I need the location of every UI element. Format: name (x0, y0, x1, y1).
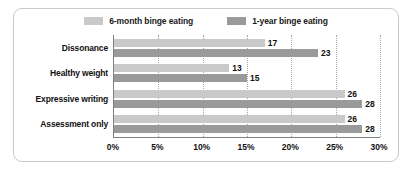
bar-value-label: 17 (268, 38, 277, 48)
x-tick-label: 10% (193, 142, 210, 152)
x-tick-label: 0% (107, 142, 119, 152)
x-tick-label: 25% (326, 142, 343, 152)
bar-0 (114, 39, 265, 47)
bar-0 (114, 90, 345, 98)
legend-label-1-year: 1-year binge eating (252, 16, 328, 26)
bar-value-label: 26 (348, 114, 357, 124)
x-tick-label: 15% (237, 142, 254, 152)
category-label: Healthy weight (14, 68, 108, 78)
bar-value-label: 15 (250, 73, 259, 83)
gridline (380, 35, 381, 137)
bar-1 (114, 49, 318, 57)
chart-legend: 6-month binge eating 1-year binge eating (14, 16, 398, 26)
legend-entry-1-year: 1-year binge eating (227, 16, 328, 26)
bar-0 (114, 64, 229, 72)
bar-value-label: 28 (365, 124, 374, 134)
x-tick-label: 5% (151, 142, 163, 152)
x-tick-label: 20% (282, 142, 299, 152)
plot-area: 1723131526282628 (113, 35, 380, 138)
legend-entry-6-month: 6-month binge eating (84, 16, 193, 26)
plot-wrapper: DissonanceHealthy weightExpressive writi… (14, 35, 400, 163)
bar-1 (114, 74, 247, 82)
legend-swatch-1-year-icon (227, 17, 246, 25)
bar-1 (114, 125, 362, 133)
legend-label-6-month: 6-month binge eating (109, 16, 193, 26)
category-label: Expressive writing (14, 94, 108, 104)
bar-value-label: 13 (232, 63, 241, 73)
chart-card: 6-month binge eating 1-year binge eating… (13, 8, 399, 162)
category-label: Dissonance (14, 43, 108, 53)
x-axis: 0%5%10%15%20%25%30% (113, 140, 379, 156)
x-tick-label: 30% (370, 142, 387, 152)
bar-value-label: 28 (365, 99, 374, 109)
bar-value-label: 26 (348, 89, 357, 99)
category-label: Assessment only (14, 119, 108, 129)
bar-value-label: 23 (321, 48, 330, 58)
bar-1 (114, 100, 362, 108)
category-axis: DissonanceHealthy weightExpressive writi… (14, 35, 112, 137)
bar-0 (114, 115, 345, 123)
legend-swatch-6-month-icon (84, 17, 103, 25)
